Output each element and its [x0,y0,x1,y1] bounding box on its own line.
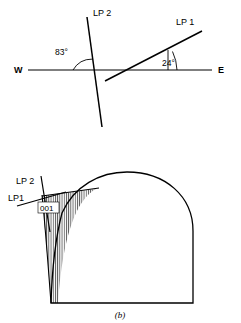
miller-index-001-label: 001 [40,204,54,213]
angle-83-label: 83° [55,47,68,57]
figure-caption: (b) [115,310,126,320]
figure-svg: W E LP 2 LP 1 83° 24° [0,0,241,323]
top-panel: W E LP 2 LP 1 83° 24° [14,8,224,127]
lp2-label-top: LP 2 [93,8,111,18]
east-label: E [218,65,224,75]
lp1-label-top: LP 1 [176,17,194,27]
lp1-line-top [105,31,202,81]
angle-24-label: 24° [162,58,175,68]
west-label: W [14,65,23,75]
lp1-label-bottom: LP1 [8,193,24,203]
lp2-label-bottom: LP 2 [16,176,34,186]
figure-canvas: W E LP 2 LP 1 83° 24° [0,0,241,323]
bottom-panel: LP 2 LP1 001 [8,172,193,310]
angle-arc-83 [73,59,92,70]
lp2-line-top [87,17,102,127]
